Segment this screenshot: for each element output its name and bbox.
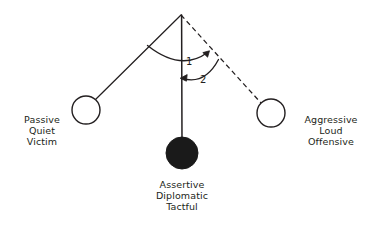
arc-2-number: 2 [200,75,206,85]
assertive-node-circle [166,137,198,169]
aggressive-node-label: Aggressive Loud Offensive [294,114,368,148]
passive-node-label: Passive Quiet Victim [6,114,78,148]
arc-1-path [148,46,208,61]
aggressive-label-line-2: Loud [294,125,368,136]
aggressive-label-line-3: Offensive [294,136,368,147]
aggressive-node-circle [257,99,285,127]
assertive-label-line-1: Assertive [132,179,232,190]
aggressive-label-line-1: Aggressive [294,114,368,125]
assertive-label-line-3: Tactful [132,201,232,212]
arc-1-arrowhead [203,51,210,57]
passive-label-line-2: Quiet [6,125,78,136]
arc-1-number: 1 [186,57,192,67]
diagram-canvas: 1 2 Passive Quiet Victim Aggressive Loud… [0,0,371,228]
assertive-label-line-2: Diplomatic [132,190,232,201]
assertive-node-label: Assertive Diplomatic Tactful [132,179,232,213]
passive-label-line-1: Passive [6,114,78,125]
passive-label-line-3: Victim [6,136,78,147]
